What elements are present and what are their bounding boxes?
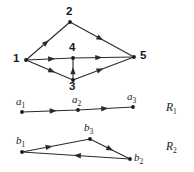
route-label-subscript: 2 xyxy=(173,146,177,155)
node-label-subscript: 2 xyxy=(140,157,144,166)
edges-layer xyxy=(22,22,134,159)
node-label-4: 4 xyxy=(69,42,75,54)
edge-4-to-5 xyxy=(73,55,134,60)
arrow-head-a2-to-a3 xyxy=(101,106,108,111)
node-label-base: b xyxy=(134,151,140,163)
node-label-1: 1 xyxy=(13,53,19,65)
nodes-layer xyxy=(20,20,136,161)
arrow-head-2-to-5 xyxy=(96,34,103,40)
node-label-base: a xyxy=(16,95,22,107)
edge-b1-to-b3 xyxy=(22,139,90,152)
node-label-a2: a2 xyxy=(72,94,81,105)
arrow-head-a1-to-a2 xyxy=(50,108,57,113)
node-dot-a2[interactable] xyxy=(76,108,80,112)
node-label-subscript: 3 xyxy=(90,127,94,136)
node-label-base: b xyxy=(84,121,90,133)
arrow-head-3-to-4 xyxy=(70,67,75,74)
node-label-b1: b1 xyxy=(16,135,25,146)
node-dot-b2[interactable] xyxy=(128,157,132,161)
route-label-base: R xyxy=(166,101,173,113)
node-label-3: 3 xyxy=(69,81,75,93)
node-dot-2[interactable] xyxy=(68,20,72,24)
arrow-head-b3-to-b2 xyxy=(106,145,113,151)
node-dot-4[interactable] xyxy=(71,56,75,60)
node-label-subscript: 1 xyxy=(22,101,26,110)
edge-b2-to-b1 xyxy=(22,152,130,159)
route-label-subscript: 1 xyxy=(173,107,177,116)
edge-1-to-3 xyxy=(26,60,73,80)
edge-3-to-4 xyxy=(70,58,75,80)
edge-b3-to-b2 xyxy=(90,139,130,159)
route-label-R2: R2 xyxy=(166,141,177,153)
edge-2-to-5 xyxy=(70,22,134,57)
route-label-base: R xyxy=(166,140,173,152)
edge-1-to-2 xyxy=(26,22,70,60)
node-label-2: 2 xyxy=(66,6,72,18)
node-dot-b3[interactable] xyxy=(88,137,92,141)
edge-3-to-5 xyxy=(73,57,134,80)
route-label-R1: R1 xyxy=(166,102,177,114)
node-label-b2: b2 xyxy=(134,152,143,163)
edge-a1-to-a2 xyxy=(22,108,78,113)
node-dot-b1[interactable] xyxy=(20,150,24,154)
node-dot-1[interactable] xyxy=(24,58,28,62)
node-label-subscript: 1 xyxy=(22,140,26,149)
edge-line xyxy=(73,57,134,58)
figure-canvas: 12345a1a2a3R1b1b2b3R2 xyxy=(0,0,194,172)
arrow-head-b1-to-b3 xyxy=(45,145,52,150)
node-label-b3: b3 xyxy=(84,122,93,133)
edge-line xyxy=(22,139,90,152)
node-label-subscript: 2 xyxy=(78,99,82,108)
node-label-subscript: 3 xyxy=(133,96,137,105)
arrow-head-4-to-5 xyxy=(95,55,102,60)
arrow-head-1-to-3 xyxy=(48,67,56,72)
arrow-head-b2-to-b1 xyxy=(74,153,81,158)
node-dot-a3[interactable] xyxy=(131,105,135,109)
diagram-svg xyxy=(0,0,194,172)
node-label-a1: a1 xyxy=(16,96,25,107)
edge-a2-to-a3 xyxy=(78,106,133,111)
node-label-5: 5 xyxy=(140,50,146,62)
arrow-head-3-to-5 xyxy=(96,68,104,73)
node-label-base: a xyxy=(127,90,133,102)
arrow-head-1-to-4 xyxy=(48,56,55,61)
node-label-base: b xyxy=(16,134,22,146)
node-label-a3: a3 xyxy=(127,91,136,102)
node-label-base: a xyxy=(72,93,78,105)
node-dot-a1[interactable] xyxy=(20,110,24,114)
edge-1-to-4 xyxy=(26,56,73,61)
node-dot-5[interactable] xyxy=(132,55,136,59)
